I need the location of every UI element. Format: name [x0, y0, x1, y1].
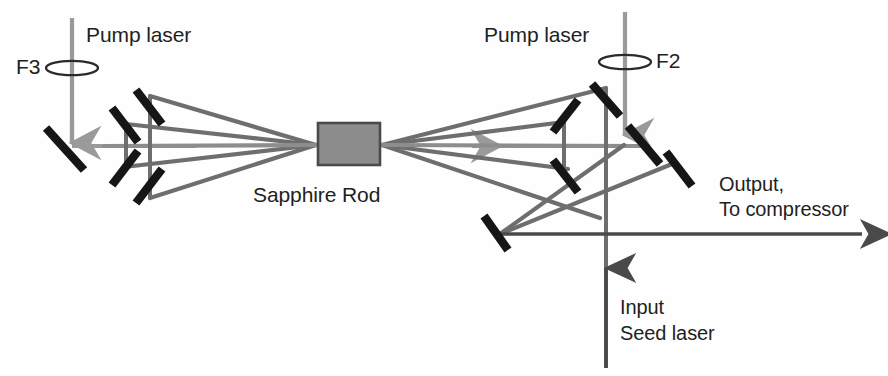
figure-canvas: Pump laser F3 Pump laser F2 Sapphire Rod… — [0, 0, 888, 376]
mirror-output-fold — [666, 152, 692, 186]
label-input-line1: Input — [620, 295, 664, 320]
mirror-pump-fold-left — [46, 128, 84, 170]
label-pump-laser-right: Pump laser — [484, 22, 589, 47]
label-lens-f2: F2 — [656, 48, 680, 73]
sapphire-rod-crystal — [318, 123, 380, 165]
label-output-line1: Output, — [719, 172, 784, 197]
label-lens-f3: F3 — [16, 54, 40, 79]
beam-bundle-right — [382, 88, 640, 218]
label-sapphire-rod: Sapphire Rod — [253, 182, 380, 207]
label-output-line2: To compressor — [719, 197, 849, 222]
label-input-line2: Seed laser — [620, 321, 715, 346]
output-beam-path — [500, 145, 672, 234]
label-pump-laser-left: Pump laser — [86, 22, 191, 47]
